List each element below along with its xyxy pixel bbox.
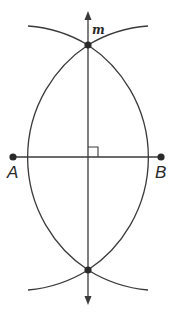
point-top-intersection: [84, 41, 91, 48]
arc-from-a: [88, 26, 148, 290]
arrow-up-icon: [85, 11, 92, 20]
label-a: A: [7, 164, 18, 181]
point-b: [157, 153, 164, 160]
point-bottom-intersection: [84, 266, 91, 273]
arc-from-b: [28, 26, 88, 290]
arrow-down-icon: [85, 296, 92, 305]
right-angle-marker: [88, 147, 98, 157]
label-m: m: [92, 24, 105, 36]
construction-diagram: [0, 0, 174, 316]
label-b: B: [155, 164, 166, 181]
point-a: [9, 153, 16, 160]
